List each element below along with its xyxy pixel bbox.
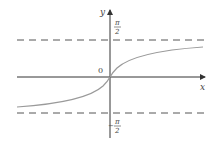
svg-text:2: 2 [114, 127, 120, 135]
arctan-graph: y x 0 π 2 − π 2 [0, 0, 219, 143]
y-axis-label: y [99, 7, 106, 17]
svg-text:π: π [114, 19, 120, 27]
origin-label: 0 [98, 66, 103, 75]
svg-text:−: − [108, 122, 114, 130]
svg-text:2: 2 [114, 28, 120, 36]
pi-over-2-label: π 2 [114, 19, 121, 36]
x-axis-label: x [200, 82, 205, 92]
svg-text:π: π [114, 118, 120, 126]
